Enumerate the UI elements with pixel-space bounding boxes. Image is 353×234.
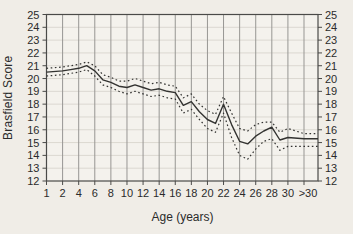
y-tick-label-left: 17 <box>27 111 39 123</box>
brasfield-score-chart: 2525242423232222212120201919181817171616… <box>0 0 353 234</box>
brasfield-chart-svg: 2525242423232222212120201919181817171616… <box>0 0 353 234</box>
y-tick-label-right: 13 <box>325 162 337 174</box>
y-tick-label-right: 22 <box>325 47 337 59</box>
y-tick-label-left: 24 <box>27 21 39 33</box>
y-tick-label-left: 21 <box>27 60 39 72</box>
y-tick-label-left: 20 <box>27 73 39 85</box>
x-tick-label: 16 <box>169 187 181 199</box>
y-tick-label-right: 21 <box>325 60 337 72</box>
x-tick-label: 4 <box>76 187 82 199</box>
y-tick-label-right: 20 <box>325 73 337 85</box>
y-tick-label-left: 25 <box>27 9 39 21</box>
y-tick-label-left: 16 <box>27 124 39 136</box>
x-tick-label: 20 <box>201 187 213 199</box>
y-tick-label-right: 17 <box>325 111 337 123</box>
x-tick-label: 24 <box>234 187 246 199</box>
x-tick-label: 6 <box>92 187 98 199</box>
plot-area <box>47 15 319 182</box>
x-tick-label: 1 <box>43 187 49 199</box>
x-tick-label: 18 <box>185 187 197 199</box>
x-tick-label: 10 <box>121 187 133 199</box>
x-tick-label: 22 <box>217 187 229 199</box>
y-tick-label-right: 23 <box>325 34 337 46</box>
y-tick-label-left: 13 <box>27 162 39 174</box>
y-tick-label-right: 16 <box>325 124 337 136</box>
x-tick-label: 14 <box>153 187 165 199</box>
x-tick-label: >30 <box>299 187 318 199</box>
y-tick-label-left: 18 <box>27 98 39 110</box>
y-tick-label-right: 19 <box>325 85 337 97</box>
y-tick-label-right: 12 <box>325 175 337 187</box>
y-tick-label-right: 15 <box>325 137 337 149</box>
y-tick-label-left: 14 <box>27 149 39 161</box>
x-tick-label: 12 <box>137 187 149 199</box>
y-tick-label-right: 14 <box>325 149 337 161</box>
y-axis-title: Brasfield Score <box>0 0 16 196</box>
y-tick-label-right: 25 <box>325 9 337 21</box>
x-tick-label: 8 <box>108 187 114 199</box>
y-tick-label-right: 18 <box>325 98 337 110</box>
y-tick-label-left: 23 <box>27 34 39 46</box>
x-tick-label: 30 <box>282 187 294 199</box>
x-axis-title: Age (years) <box>47 210 318 224</box>
x-tick-label: 2 <box>60 187 66 199</box>
x-tick-label: 26 <box>250 187 262 199</box>
y-tick-label-right: 24 <box>325 21 337 33</box>
x-tick-label: 28 <box>266 187 278 199</box>
y-tick-label-left: 15 <box>27 137 39 149</box>
y-tick-label-left: 12 <box>27 175 39 187</box>
y-tick-label-left: 19 <box>27 85 39 97</box>
y-tick-label-left: 22 <box>27 47 39 59</box>
